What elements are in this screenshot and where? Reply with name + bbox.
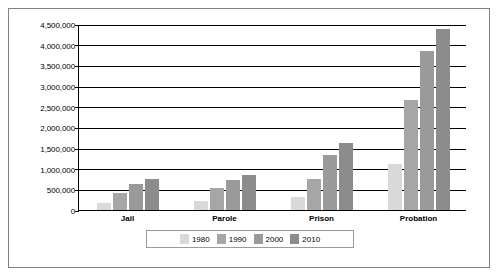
bar [194,201,208,210]
legend-swatch-2000 [254,234,263,244]
legend-item: 2000 [254,234,284,244]
bar [129,184,143,210]
bar-group [370,25,467,210]
y-axis-tick [75,211,79,212]
bar [226,180,240,210]
chart-frame: 0500,0001,000,0001,500,0002,000,0002,500… [8,8,490,268]
y-axis-tick-label: 3,000,000 [40,83,75,92]
x-axis-label-jail: Jail [121,214,134,223]
bar-group [176,25,273,210]
legend-swatch-1990 [217,234,226,244]
bar [420,51,434,210]
y-axis-tick-label: 1,500,000 [40,145,75,154]
bar-group [273,25,370,210]
bar [404,100,418,210]
bar [113,193,127,210]
bar [242,175,256,210]
legend-label: 1980 [192,235,210,244]
plot-area: 0500,0001,000,0001,500,0002,000,0002,500… [78,25,466,211]
legend-swatch-2010 [290,234,299,244]
y-axis-tick-label: 0 [71,207,75,216]
y-axis-tick-label: 2,000,000 [40,124,75,133]
chart-legend: 1980199020002010 [146,230,354,248]
bar [339,143,353,210]
bar [145,179,159,210]
y-axis-tick-label: 3,500,000 [40,62,75,71]
legend-item: 2010 [290,234,320,244]
bar [210,188,224,210]
y-axis-tick-label: 500,000 [47,186,75,195]
legend-label: 2010 [302,235,320,244]
legend-swatch-1980 [180,234,189,244]
bar [436,29,450,210]
bar [323,155,337,210]
legend-item: 1980 [180,234,210,244]
y-axis-tick-label: 4,000,000 [40,41,75,50]
legend-item: 1990 [217,234,247,244]
x-axis-label-parole: Parole [212,214,236,223]
y-axis-tick-label: 1,000,000 [40,165,75,174]
bar [388,164,402,210]
y-axis-tick-label: 4,500,000 [40,21,75,30]
y-axis-tick-label: 2,500,000 [40,103,75,112]
bar [97,203,111,210]
bar [291,197,305,210]
legend-label: 1990 [229,235,247,244]
legend-label: 2000 [266,235,284,244]
bar-group [79,25,176,210]
x-axis-label-probation: Probation [400,214,437,223]
x-axis-label-prison: Prison [309,214,334,223]
bar [307,179,321,210]
